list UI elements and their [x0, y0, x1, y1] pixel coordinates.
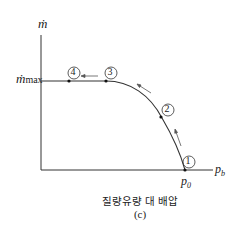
point-3-label: 3: [108, 66, 113, 77]
point-2-label: 2: [165, 103, 170, 114]
point-1-dot: [183, 168, 186, 171]
x-tick-subscript: 0: [187, 181, 191, 190]
y-axis-label: ṁ: [38, 16, 47, 32]
sublabel: (c): [80, 208, 200, 220]
x-axis-label: pb: [215, 162, 225, 178]
point-4-label: 4: [71, 66, 76, 77]
x-tick-p0: p0: [181, 174, 191, 190]
point-3-dot: [104, 79, 107, 82]
point-4-dot: [67, 79, 70, 82]
point-1-label: 1: [186, 155, 191, 166]
y-tick-subscript: max: [25, 74, 42, 85]
flow-curve: [41, 81, 185, 170]
point-2-dot: [159, 115, 162, 118]
y-tick-mmax: ṁmax: [16, 71, 43, 87]
x-axis-subscript: b: [221, 169, 225, 178]
y-tick-symbol: ṁ: [16, 71, 25, 86]
caption: 질량유량 대 배압: [80, 193, 200, 208]
